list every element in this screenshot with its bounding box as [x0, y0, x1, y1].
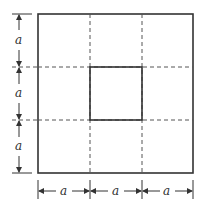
left-label-3: a [15, 139, 22, 153]
left-label-2: a [15, 86, 22, 100]
bottom-label-1: a [60, 184, 67, 198]
inner-square [90, 67, 142, 120]
bottom-label-3: a [163, 184, 170, 198]
outer-square [38, 14, 193, 173]
left-label-1: a [15, 33, 22, 47]
grid-diagram: a a a a a a [0, 0, 204, 216]
bottom-label-2: a [112, 184, 119, 198]
dashed-grid-lines [12, 14, 193, 173]
